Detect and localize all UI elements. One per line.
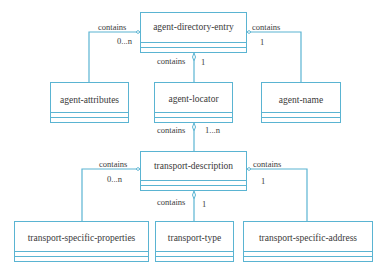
methods-separator xyxy=(262,117,340,118)
class-transport-specific-properties: transport-specific-properties xyxy=(14,221,149,262)
class-agent-locator: agent-locator xyxy=(154,82,233,123)
uml-diagram: agent-directory-entry agent-attributes a… xyxy=(0,0,384,279)
attributes-separator xyxy=(156,251,233,252)
methods-separator xyxy=(141,185,246,186)
methods-separator xyxy=(51,117,128,118)
methods-separator xyxy=(141,47,246,48)
relation-label: contains xyxy=(98,23,126,32)
class-agent-attributes: agent-attributes xyxy=(50,82,129,123)
class-name: agent-name xyxy=(262,95,340,105)
attributes-separator xyxy=(244,251,372,252)
class-agent-directory-entry: agent-directory-entry xyxy=(140,12,247,53)
relation-label: contains xyxy=(157,126,185,135)
multiplicity-label: 1 xyxy=(202,200,206,209)
methods-separator xyxy=(155,117,232,118)
relation-label: contains xyxy=(253,160,281,169)
class-transport-type: transport-type xyxy=(155,221,234,262)
multiplicity-label: 0...n xyxy=(107,175,122,184)
multiplicity-label: 1 xyxy=(260,38,264,47)
relation-label: contains xyxy=(252,23,280,32)
multiplicity-label: 1 xyxy=(261,177,265,186)
class-name: agent-directory-entry xyxy=(141,22,246,32)
multiplicity-label: 0...n xyxy=(117,37,132,46)
attributes-separator xyxy=(15,251,148,252)
class-name: agent-locator xyxy=(155,94,232,104)
class-name: transport-specific-properties xyxy=(15,233,148,243)
attributes-separator xyxy=(155,112,232,113)
attributes-separator xyxy=(141,180,246,181)
methods-separator xyxy=(244,256,372,257)
relation-label: contains xyxy=(99,160,127,169)
class-transport-specific-address: transport-specific-address xyxy=(243,221,373,262)
class-name: transport-specific-address xyxy=(244,233,372,243)
class-name: agent-attributes xyxy=(51,95,128,105)
attributes-separator xyxy=(51,112,128,113)
class-name: transport-description xyxy=(141,161,246,171)
methods-separator xyxy=(156,256,233,257)
relation-label: contains xyxy=(157,198,185,207)
multiplicity-label: 1...n xyxy=(205,126,220,135)
class-transport-description: transport-description xyxy=(140,151,247,191)
attributes-separator xyxy=(262,112,340,113)
relation-label: contains xyxy=(157,57,185,66)
attributes-separator xyxy=(141,42,246,43)
methods-separator xyxy=(15,256,148,257)
multiplicity-label: 1 xyxy=(201,58,205,67)
class-agent-name: agent-name xyxy=(261,82,341,123)
class-name: transport-type xyxy=(156,233,233,243)
